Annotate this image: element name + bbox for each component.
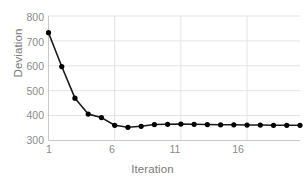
data-point-marker: [284, 123, 289, 128]
chart-container: Deviation 800 700 600 500 400 300 1 6 11…: [0, 0, 305, 185]
data-point-marker: [72, 96, 77, 101]
gridlines-horizontal: [49, 16, 301, 141]
data-point-marker: [125, 125, 130, 130]
data-point-marker: [46, 30, 51, 35]
data-point-marker: [218, 122, 223, 127]
data-point-marker: [205, 122, 210, 127]
data-point-marker: [178, 121, 183, 126]
data-point-marker: [139, 124, 144, 129]
data-point-marker: [258, 122, 263, 127]
series-markers-deviation: [46, 30, 303, 130]
data-point-marker: [297, 123, 302, 128]
data-point-marker: [152, 122, 157, 127]
data-point-marker: [244, 122, 249, 127]
data-point-marker: [192, 122, 197, 127]
data-point-marker: [165, 122, 170, 127]
data-point-marker: [112, 123, 117, 128]
data-point-marker: [86, 112, 91, 117]
data-point-marker: [59, 64, 64, 69]
plot-area: [0, 0, 305, 185]
data-point-marker: [231, 122, 236, 127]
gridlines-vertical: [49, 16, 248, 141]
data-point-marker: [99, 115, 104, 120]
data-point-marker: [271, 123, 276, 128]
